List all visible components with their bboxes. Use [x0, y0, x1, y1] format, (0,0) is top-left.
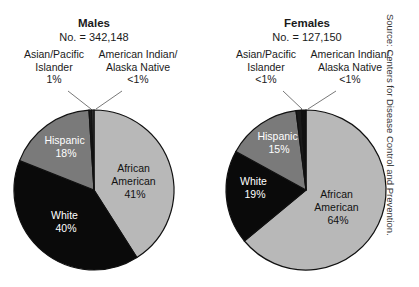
females-asian-leader — [283, 91, 302, 109]
females-american-indian-leader — [308, 91, 336, 109]
males-pie — [14, 110, 174, 270]
pie-charts: African American 41% White 40% Hispanic … — [0, 0, 419, 287]
males-label-white: White 40% — [51, 209, 81, 234]
males-asian-leader — [68, 91, 91, 109]
males-american-indian-leader — [96, 91, 122, 109]
females-label-white: White 19% — [240, 175, 270, 200]
